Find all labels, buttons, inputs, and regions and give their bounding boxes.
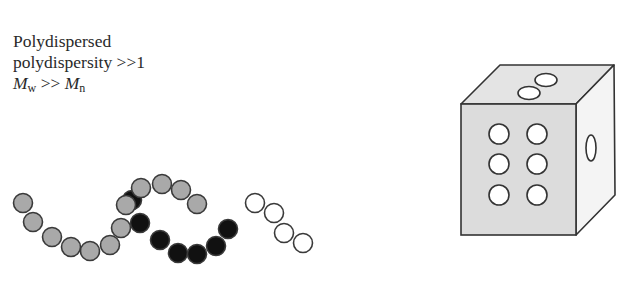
monomer-bead: [172, 181, 191, 200]
die-illustration: [461, 65, 615, 235]
monomer-bead: [153, 175, 172, 194]
top-pip: [518, 87, 540, 100]
monomer-bead: [43, 228, 62, 247]
polymer-chains: [14, 175, 313, 264]
die-front-face: [461, 104, 576, 235]
white-chain: [246, 194, 313, 253]
monomer-bead: [151, 231, 170, 250]
monomer-bead: [265, 204, 284, 223]
side-pip: [586, 135, 596, 161]
monomer-bead: [275, 224, 294, 243]
front-pip: [527, 185, 547, 205]
monomer-bead: [117, 196, 136, 215]
monomer-bead: [131, 214, 150, 233]
monomer-bead: [169, 244, 188, 263]
monomer-bead: [132, 179, 151, 198]
monomer-bead: [188, 195, 207, 214]
front-pip: [527, 154, 547, 174]
monomer-bead: [24, 213, 43, 232]
monomer-bead: [81, 242, 100, 261]
monomer-bead: [101, 236, 120, 255]
black-chain: [123, 191, 238, 264]
monomer-bead: [294, 234, 313, 253]
monomer-bead: [112, 219, 131, 238]
monomer-bead: [207, 237, 226, 256]
front-pip: [527, 124, 547, 144]
front-pip: [489, 185, 509, 205]
monomer-bead: [14, 194, 33, 213]
polymer-chains-diagram: [0, 0, 636, 281]
front-pip: [489, 154, 509, 174]
front-pip: [489, 124, 509, 144]
monomer-bead: [246, 194, 265, 213]
monomer-bead: [219, 220, 238, 239]
monomer-bead: [188, 245, 207, 264]
monomer-bead: [62, 238, 81, 257]
top-pip: [535, 74, 557, 87]
